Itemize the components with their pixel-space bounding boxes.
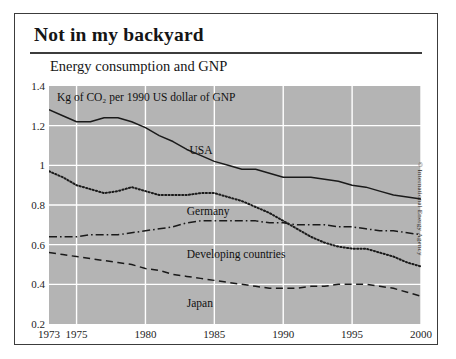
y-tick-label: 1.2 <box>31 120 45 132</box>
x-tick-label: 1973 <box>38 328 60 340</box>
y-tick-label: 0.4 <box>31 278 45 290</box>
y-tick-label: 1.4 <box>31 80 45 92</box>
axis-unit-note: Kg of CO₂ per 1990 US dollar of GNP <box>57 91 235 103</box>
x-tick-label: 1985 <box>203 328 225 340</box>
y-tick-label: 0.8 <box>31 199 45 211</box>
x-tick-label: 1995 <box>341 328 363 340</box>
x-tick-label: 2000 <box>410 328 432 340</box>
series-label-developing-countries: Developing countries <box>187 248 286 260</box>
source-credit: © International Energy Agency <box>416 162 424 256</box>
series-lines <box>49 86 421 324</box>
figure-card: Not in my backyard Energy consumption an… <box>14 13 438 345</box>
chart-title: Energy consumption and GNP <box>50 58 227 75</box>
plot-area: Kg of CO₂ per 1990 US dollar of GNP USAG… <box>49 86 421 324</box>
series-label-usa: USA <box>190 144 213 156</box>
x-tick-label: 1975 <box>66 328 88 340</box>
y-axis-labels: 0.20.40.60.811.21.4 <box>13 86 45 324</box>
x-tick-label: 1980 <box>134 328 156 340</box>
y-tick-label: 0.6 <box>31 239 45 251</box>
y-tick-label: 1 <box>40 159 46 171</box>
series-label-germany: Germany <box>187 205 230 217</box>
plot-canvas: Kg of CO₂ per 1990 US dollar of GNP USAG… <box>49 86 421 324</box>
title-divider <box>30 52 422 54</box>
x-axis-labels: 1973197519801985199019952000 <box>49 328 421 344</box>
series-label-japan: Japan <box>187 297 213 309</box>
x-tick-label: 1990 <box>272 328 294 340</box>
page-title: Not in my backyard <box>34 24 204 46</box>
